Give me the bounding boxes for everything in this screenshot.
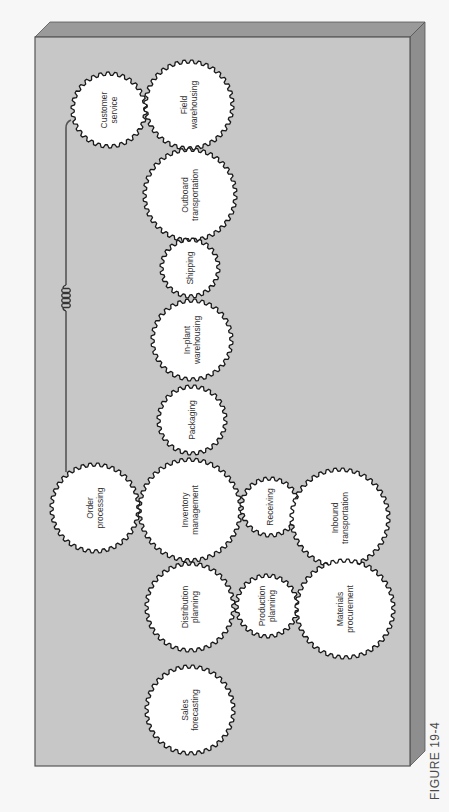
gear-label-line: processing [95, 487, 105, 528]
gear-label-line: Packaging [187, 400, 197, 440]
gear-label-line: Materials [335, 592, 345, 626]
figure-caption: FIGURE 19-4 [428, 722, 442, 800]
gear-label-line: procurement [345, 585, 355, 633]
gear-sales-forecasting: Salesforecasting [145, 665, 235, 755]
gear-label-line: Inventory [180, 492, 190, 528]
gear-label: Packaging [187, 400, 197, 440]
gear-label-line: planning [190, 591, 200, 623]
gear-label-line: transportation [190, 169, 200, 221]
board-side-bevel [410, 22, 425, 766]
gear-label-line: Receiving [265, 488, 275, 526]
gear-label: Materialsprocurement [335, 585, 356, 633]
board-top-bevel [35, 22, 425, 37]
gear-label-line: management [190, 485, 200, 535]
supply-chain-gears-diagram: CustomerserviceFieldwarehousingOutboardt… [0, 0, 449, 812]
gear-label-line: service [109, 96, 119, 123]
gear-label: Distributionplanning [180, 585, 201, 628]
gear-distribution-planning: Distributionplanning [145, 562, 235, 652]
gear-label-line: warehousing [192, 316, 202, 365]
gear-order-processing: Orderprocessing [50, 463, 140, 553]
spring-icon [62, 285, 71, 311]
gear-label-line: Order [85, 497, 95, 519]
gear-label: Productionplanning [257, 585, 278, 626]
gear-field-warehousing: Fieldwarehousing [144, 60, 234, 150]
gear-label-line: In-plant [182, 325, 192, 354]
gear-label-line: Distribution [180, 585, 190, 628]
gear-label-line: Production [257, 585, 267, 626]
gear-label-line: Shipping [185, 251, 195, 284]
gear-label-line: Field [179, 96, 189, 115]
gear-label: Customerservice [99, 91, 120, 128]
gear-label-line: Outboard [180, 177, 190, 213]
diagram-canvas: CustomerserviceFieldwarehousingOutboardt… [0, 0, 449, 812]
gear-label: Shipping [185, 251, 195, 284]
board-face [35, 37, 410, 766]
gear-label-line: Sales [180, 699, 190, 720]
gear-label-line: warehousing [189, 81, 199, 130]
gear-label-line: Customer [99, 91, 109, 128]
gear-label-line: planning [267, 590, 277, 622]
gear-label-line: transportation [340, 492, 350, 544]
gear-packaging: Packaging [157, 385, 227, 455]
gear-label: Receiving [265, 488, 275, 526]
gear-label-line: Inbound [330, 502, 340, 533]
gear-label-line: forecasting [190, 689, 200, 731]
